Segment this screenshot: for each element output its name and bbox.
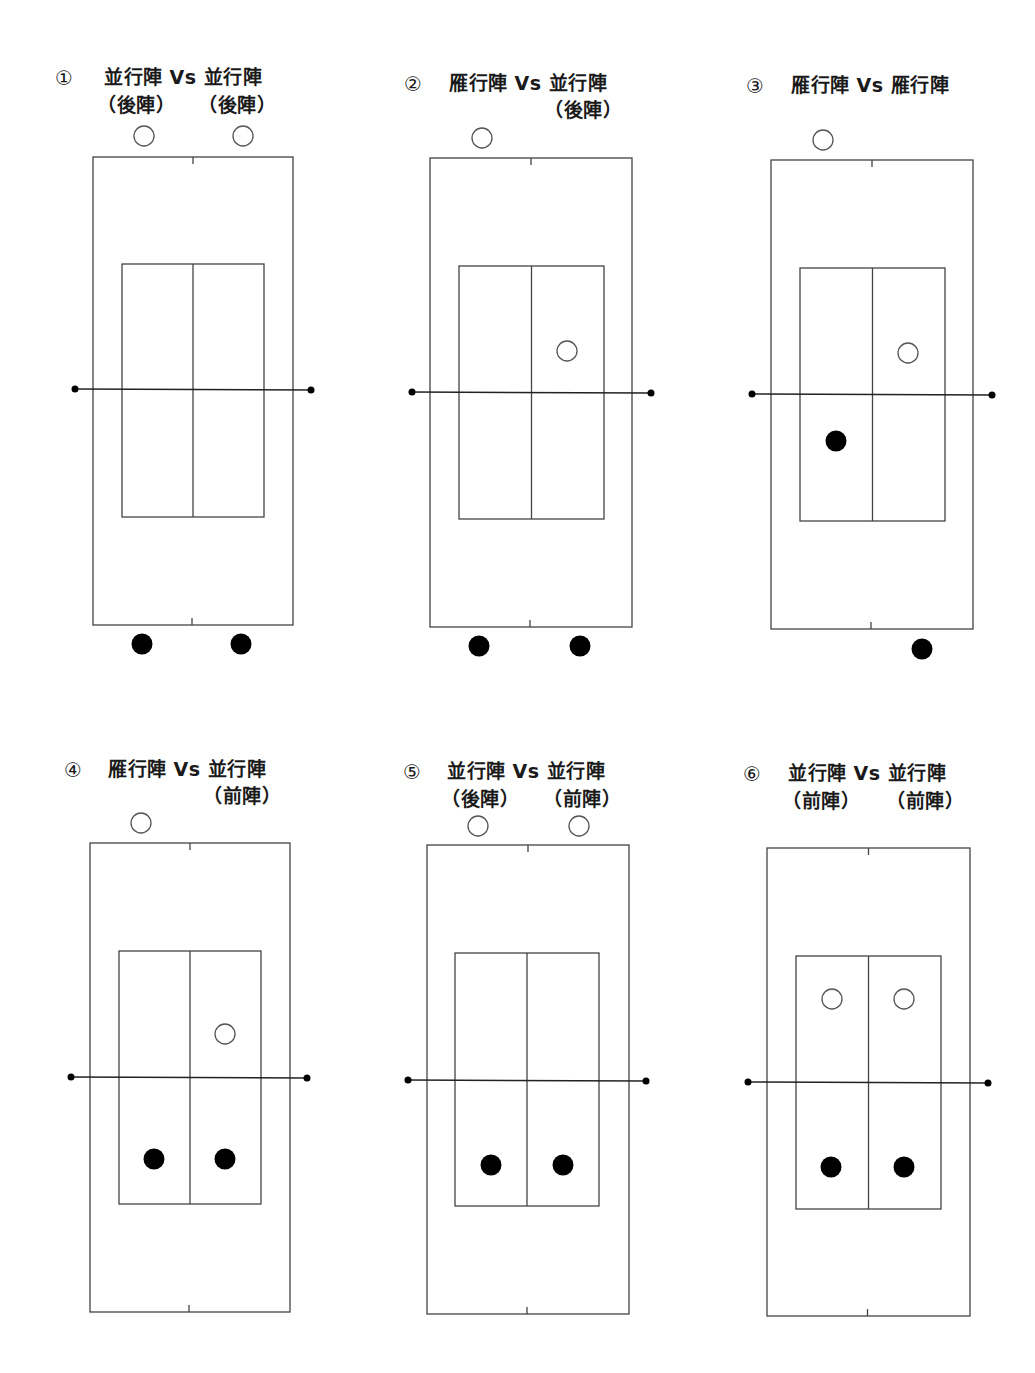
net-post-right	[648, 390, 655, 397]
own-player-marker	[894, 1157, 915, 1178]
own-player-marker	[821, 1157, 842, 1178]
net-post-right	[985, 1080, 992, 1087]
opponent-player-marker	[894, 989, 914, 1009]
opponent-player-marker	[233, 126, 253, 146]
net-line	[71, 1077, 307, 1078]
net-post-right	[308, 387, 315, 394]
opponent-player-marker	[813, 130, 833, 150]
court-panel-6	[745, 848, 992, 1316]
net-post-left	[72, 386, 79, 393]
own-player-marker	[570, 636, 591, 657]
opponent-player-marker	[131, 813, 151, 833]
panel-number: ⑤	[403, 760, 421, 784]
position-label-right: （後陣）	[544, 97, 622, 123]
opponent-player-marker	[822, 989, 842, 1009]
panel-title: 並行陣 Vs 並行陣	[104, 64, 262, 90]
net-post-left	[749, 391, 756, 398]
own-player-marker	[144, 1149, 165, 1170]
position-label-right: （前陣）	[886, 788, 964, 814]
panel-title: 雁行陣 Vs 雁行陣	[791, 72, 949, 98]
position-label-right: （前陣）	[543, 786, 621, 812]
net-post-left	[409, 389, 416, 396]
position-label-right: （後陣）	[198, 92, 276, 118]
position-label-left: （後陣）	[441, 786, 519, 812]
net-post-right	[304, 1075, 311, 1082]
court-panel-4	[68, 813, 311, 1312]
net-line	[408, 1080, 646, 1081]
opponent-player-marker	[134, 126, 154, 146]
opponent-player-marker	[569, 816, 589, 836]
panel-title: 並行陣 Vs 並行陣	[447, 758, 605, 784]
net-line	[752, 394, 992, 395]
court-panel-5	[405, 816, 650, 1314]
position-label-left: （前陣）	[782, 788, 860, 814]
court-panel-1	[72, 126, 315, 655]
net-post-right	[989, 392, 996, 399]
net-post-left	[68, 1074, 75, 1081]
position-label-right: （前陣）	[203, 783, 281, 809]
net-line	[75, 389, 311, 390]
panel-number: ①	[55, 66, 73, 90]
panel-title: 雁行陣 Vs 並行陣	[108, 756, 266, 782]
own-player-marker	[231, 634, 252, 655]
opponent-player-marker	[898, 343, 918, 363]
net-post-left	[405, 1077, 412, 1084]
net-line	[412, 392, 651, 393]
own-player-marker	[553, 1155, 574, 1176]
net-line	[748, 1082, 988, 1083]
court-panel-2	[409, 128, 655, 657]
own-player-marker	[481, 1155, 502, 1176]
panel-title: 雁行陣 Vs 並行陣	[449, 70, 607, 96]
own-player-marker	[132, 634, 153, 655]
own-player-marker	[912, 639, 933, 660]
own-player-marker	[826, 431, 847, 452]
own-player-marker	[215, 1149, 236, 1170]
position-label-left: （後陣）	[97, 92, 175, 118]
courts-layer	[0, 0, 1035, 1373]
panel-number: ⑥	[743, 762, 761, 786]
net-post-left	[745, 1079, 752, 1086]
panel-number: ②	[404, 72, 422, 96]
panel-number: ③	[746, 74, 764, 98]
opponent-player-marker	[472, 128, 492, 148]
own-player-marker	[469, 636, 490, 657]
panel-title: 並行陣 Vs 並行陣	[788, 760, 946, 786]
net-post-right	[643, 1078, 650, 1085]
opponent-player-marker	[215, 1024, 235, 1044]
court-panel-3	[749, 130, 996, 660]
opponent-player-marker	[557, 341, 577, 361]
opponent-player-marker	[468, 816, 488, 836]
panel-number: ④	[64, 758, 82, 782]
